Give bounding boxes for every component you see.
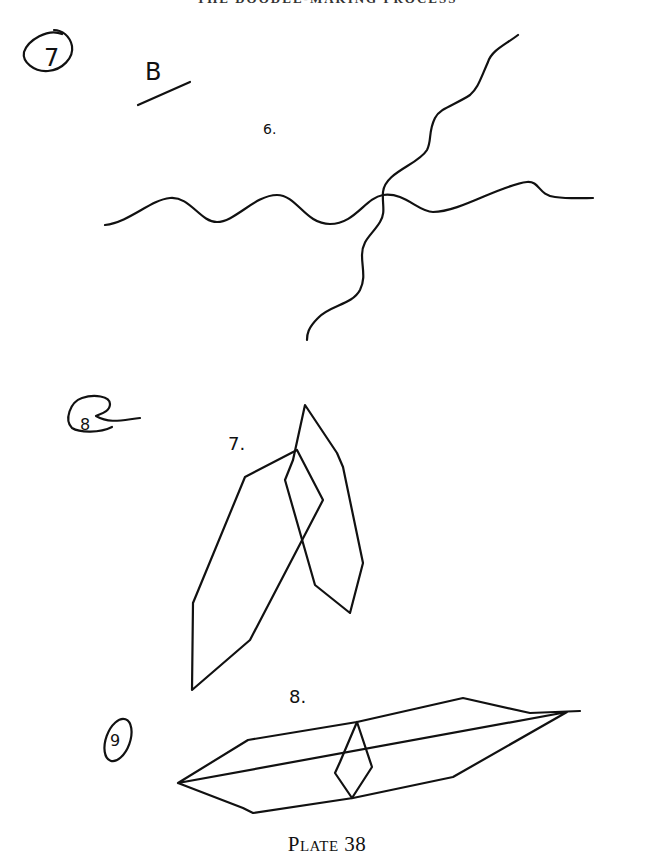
circled-number-7: 7 [24, 30, 72, 72]
figure-label-6: 6. [263, 121, 276, 137]
svg-text:7: 7 [44, 44, 59, 72]
right-polygon [285, 405, 363, 613]
plate-caption: Plate 38 [0, 832, 654, 857]
figure-8: 9 8. [99, 686, 580, 813]
svg-text:B: B [145, 58, 161, 86]
long-polygon [178, 698, 580, 813]
figure-7: 8 7. [68, 396, 363, 690]
vertical-wavy-line [307, 35, 518, 340]
svg-text:8: 8 [80, 415, 90, 434]
inner-diamond [335, 722, 372, 798]
figure-label-8: 8. [289, 686, 306, 707]
plate-drawing: 7 B 6. 8 7. 9 8. [0, 0, 654, 863]
letter-b-annotation: B [138, 58, 190, 105]
svg-text:9: 9 [110, 731, 120, 750]
left-polygon [192, 450, 323, 690]
horizontal-wavy-line [105, 182, 593, 225]
circled-number-8: 8 [68, 396, 140, 434]
circled-number-9: 9 [99, 715, 137, 765]
figure-6: 7 B 6. [24, 30, 593, 340]
figure-label-7: 7. [228, 433, 245, 454]
